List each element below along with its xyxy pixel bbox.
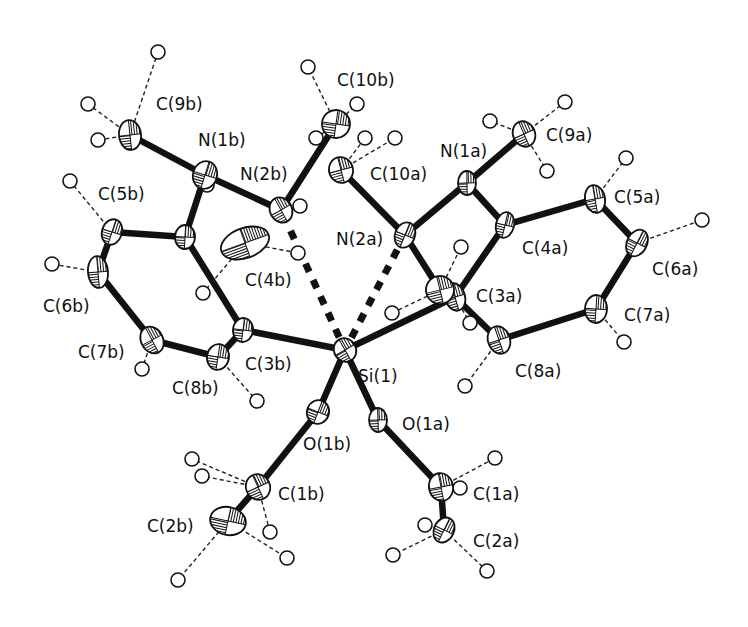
hydrogen-atom	[385, 306, 399, 320]
hydrogen-atom	[81, 97, 95, 111]
hydrogen-atom	[171, 573, 185, 587]
hydrogen-atom	[195, 469, 209, 483]
hydrogen-atom	[63, 174, 77, 188]
hydrogen-atom	[196, 286, 210, 300]
atom-label-si1: Si(1)	[358, 366, 398, 386]
atom-label-c8a: C(8a)	[515, 361, 561, 381]
hydrogen-atom	[540, 164, 554, 178]
hydrogen-atom	[619, 151, 633, 165]
ortep-diagram: Si(1)C(3b)C(3a)O(1b)O(1a)C(1b)C(2b)C(1a)…	[0, 0, 748, 627]
atom-label-c6a: C(6a)	[652, 259, 698, 279]
molecule-canvas: Si(1)C(3b)C(3a)O(1b)O(1a)C(1b)C(2b)C(1a)…	[0, 0, 748, 627]
atom-label-c3a: C(3a)	[476, 286, 522, 306]
hydrogen-atom	[291, 246, 305, 260]
hydrogen-atom	[91, 133, 105, 147]
atom-ellipsoid-o1a	[369, 408, 388, 433]
hydrogen-atom	[488, 451, 502, 465]
covalent-bond	[499, 309, 596, 340]
covalent-bond-layer	[98, 124, 637, 530]
si-n-coordination-bond	[287, 223, 339, 338]
hydrogen-atom	[301, 60, 315, 74]
atom-ellipsoid-c6b	[87, 255, 110, 289]
hydrogen-atom	[250, 394, 264, 408]
atom-ellipsoid-c9b	[117, 119, 142, 151]
hydrogen-atom	[185, 452, 199, 466]
atom-label-n2a: N(2a)	[336, 229, 383, 249]
atom-label-c9b: C(9b)	[156, 94, 203, 114]
hydrogen-atom-layer	[45, 45, 709, 587]
atom-ellipsoid-n1b	[189, 158, 220, 192]
hydrogen-atom	[463, 316, 477, 330]
hydrogen-atom	[358, 131, 372, 145]
atom-label-n1b: N(1b)	[198, 130, 246, 150]
atom-label-c7a: C(7a)	[624, 305, 670, 325]
atom-ellipsoid-n1a	[458, 171, 476, 195]
hydrogen-atom	[617, 335, 631, 349]
atom-label-o1a: O(1a)	[402, 414, 450, 434]
atom-label-c5b: C(5b)	[98, 184, 145, 204]
atom-label-c1a: C(1a)	[473, 484, 519, 504]
hydrogen-atom	[388, 131, 402, 145]
atom-label-c4b: C(4b)	[245, 270, 292, 290]
hydrogen-atom	[350, 97, 364, 111]
covalent-bond	[243, 330, 345, 350]
hydrogen-atom	[386, 548, 400, 562]
hydrogen-atom	[418, 518, 432, 532]
hydrogen-atom	[309, 131, 323, 145]
hydrogen-atom	[695, 213, 709, 227]
atom-ellipsoid-c4b_ring	[174, 224, 195, 249]
atom-label-c1b: C(1b)	[278, 484, 325, 504]
hydrogen-atom	[480, 564, 494, 578]
atom-label-c2b: C(2b)	[147, 516, 194, 536]
atom-label-c7b: C(7b)	[78, 342, 125, 362]
atom-label-c9a: C(9a)	[546, 125, 592, 145]
atom-label-c10b: C(10b)	[337, 70, 395, 90]
hydrogen-atom	[263, 525, 277, 539]
hydrogen-atom	[135, 362, 149, 376]
hydrogen-atom	[45, 257, 59, 271]
hydrogen-atom	[280, 551, 294, 565]
atom-label-c6b: C(6b)	[43, 296, 90, 316]
hydrogen-atom	[454, 240, 468, 254]
hydrogen-atom	[558, 95, 572, 109]
hydrogen-atom	[453, 481, 467, 495]
covalent-bond	[505, 199, 595, 225]
atom-label-c5a: C(5a)	[614, 187, 660, 207]
covalent-bond	[345, 297, 455, 350]
atom-label-n2b: N(2b)	[240, 164, 288, 184]
hydrogen-atom	[483, 114, 497, 128]
atom-ellipsoid-si1	[329, 334, 360, 366]
atom-ellipsoid-c2a	[429, 514, 458, 546]
atom-label-c8b: C(8b)	[172, 378, 219, 398]
atom-label-c10a: C(10a)	[370, 164, 427, 184]
atom-label-c4a: C(4a)	[522, 238, 568, 258]
hydrogen-atom	[458, 379, 472, 393]
atom-label-n1a: N(1a)	[440, 141, 487, 161]
atom-label-c2a: C(2a)	[473, 531, 519, 551]
hydrogen-atom	[151, 45, 165, 59]
hydrogen-atom	[293, 199, 307, 213]
atom-label-o1b: O(1b)	[303, 434, 351, 454]
atom-label-c3b: C(3b)	[245, 354, 292, 374]
atom-ellipsoid-c7a	[584, 294, 608, 323]
atom-ellipsoid-c4b	[216, 220, 273, 265]
